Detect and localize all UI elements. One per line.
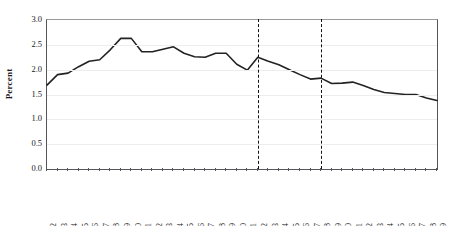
x-axis-tick-label: 2006 (302, 223, 311, 226)
y-axis-tick-label: 2.5 (31, 40, 42, 49)
gridline (47, 45, 437, 46)
x-axis-tick-label: 2017 (418, 223, 427, 226)
x-axis-tick-mark (362, 168, 363, 171)
x-axis-tick-mark (425, 168, 426, 171)
plot-inner (47, 20, 437, 169)
x-axis-tick-label: 1997 (207, 223, 216, 226)
x-axis-tick-label: 2018 (429, 223, 438, 226)
x-axis-tick-mark (162, 168, 163, 171)
y-axis-tick-label: 1.0 (31, 114, 42, 123)
x-axis-tick-label: 2019 (439, 223, 448, 226)
x-axis-tick-mark (320, 168, 321, 171)
x-axis-tick-mark (88, 168, 89, 171)
x-axis-tick-label: 2011 (355, 223, 364, 226)
x-axis-tick-mark (352, 168, 353, 171)
x-axis-tick-mark (246, 168, 247, 171)
x-axis-tick-mark (331, 168, 332, 171)
x-axis-tick-mark (109, 168, 110, 171)
x-axis-tick-mark (383, 168, 384, 171)
x-axis-tick-mark (215, 168, 216, 171)
x-axis-tick-label: 2012 (365, 223, 374, 226)
x-axis-tick-label: 1987 (102, 223, 111, 226)
x-axis-tick-label: 1983 (60, 223, 69, 226)
x-axis-tick-mark (310, 168, 311, 171)
x-axis-tick-labels: 1982198319841985198619871988198919901991… (46, 171, 438, 226)
x-axis-tick-label: 1994 (176, 223, 185, 226)
x-axis-tick-mark (341, 168, 342, 171)
x-axis-tick-mark (267, 168, 268, 171)
x-axis-tick-label: 2002 (260, 223, 269, 226)
x-axis-tick-label: 1996 (197, 223, 206, 226)
x-axis-tick-mark (67, 168, 68, 171)
x-axis-tick-label: 2014 (386, 223, 395, 226)
x-axis-tick-label: 1993 (165, 223, 174, 226)
x-axis-tick-mark (120, 168, 121, 171)
x-axis-tick-label: 2001 (249, 223, 258, 226)
gridline (47, 95, 437, 96)
y-axis-title: Percent (1, 0, 17, 168)
y-axis-title-text: Percent (4, 69, 14, 100)
x-axis-tick-mark (394, 168, 395, 171)
x-axis-tick-label: 2015 (397, 223, 406, 226)
x-axis-tick-mark (225, 168, 226, 171)
plot-area (46, 19, 438, 170)
x-axis-tick-mark (404, 168, 405, 171)
x-axis-tick-mark (46, 168, 47, 171)
x-axis-tick-label: 1982 (49, 223, 58, 226)
y-axis-tick-label: 0.5 (31, 139, 42, 148)
x-axis-tick-mark (78, 168, 79, 171)
x-axis-tick-mark (415, 168, 416, 171)
y-axis-tick-label: 2.0 (31, 64, 42, 73)
x-axis-tick-mark (436, 168, 437, 171)
gridline (47, 119, 437, 120)
x-axis-tick-mark (288, 168, 289, 171)
x-axis-tick-label: 1991 (144, 223, 153, 226)
x-axis-tick-mark (236, 168, 237, 171)
x-axis-tick-mark (373, 168, 374, 171)
x-axis-tick-label: 1999 (228, 223, 237, 226)
x-axis-tick-label: 1992 (155, 223, 164, 226)
x-axis-tick-mark (141, 168, 142, 171)
x-axis-tick-label: 2000 (239, 223, 248, 226)
x-axis-tick-label: 1995 (186, 223, 195, 226)
x-axis-tick-label: 1989 (123, 223, 132, 226)
x-axis-tick-mark (130, 168, 131, 171)
gridline (47, 144, 437, 145)
y-axis-tick-label: 1.5 (31, 89, 42, 98)
x-axis-tick-label: 2008 (323, 223, 332, 226)
x-axis-tick-mark (57, 168, 58, 171)
x-axis-tick-label: 2005 (292, 223, 301, 226)
line-chart: Percent 0.00.51.01.52.02.53.0 1982198319… (0, 0, 459, 226)
x-axis-tick-label: 2016 (408, 223, 417, 226)
y-axis-tick-label: 3.0 (31, 15, 42, 24)
x-axis-tick-mark (172, 168, 173, 171)
x-axis-tick-label: 1986 (91, 223, 100, 226)
x-axis-tick-mark (183, 168, 184, 171)
x-axis-tick-mark (278, 168, 279, 171)
x-axis-tick-mark (151, 168, 152, 171)
annotation-vertical-line (321, 19, 322, 169)
x-axis-tick-label: 2003 (271, 223, 280, 226)
x-axis-tick-mark (299, 168, 300, 171)
x-axis-tick-label: 1998 (218, 223, 227, 226)
x-axis-tick-label: 2013 (376, 223, 385, 226)
gridline (47, 70, 437, 71)
x-axis-tick-mark (99, 168, 100, 171)
x-axis-tick-mark (194, 168, 195, 171)
x-axis-tick-label: 2010 (344, 223, 353, 226)
y-axis-tick-labels: 0.00.51.01.52.02.53.0 (18, 0, 44, 175)
y-axis-tick-label: 0.0 (31, 164, 42, 173)
x-axis-tick-label: 1990 (134, 223, 143, 226)
x-axis-tick-label: 1985 (81, 223, 90, 226)
x-axis-tick-label: 1984 (70, 223, 79, 226)
x-axis-tick-label: 2007 (313, 223, 322, 226)
x-axis-tick-label: 1988 (112, 223, 121, 226)
x-axis-tick-mark (204, 168, 205, 171)
annotation-vertical-line (258, 19, 259, 169)
x-axis-tick-label: 2004 (281, 223, 290, 226)
x-axis-tick-mark (257, 168, 258, 171)
x-axis-tick-label: 2009 (334, 223, 343, 226)
